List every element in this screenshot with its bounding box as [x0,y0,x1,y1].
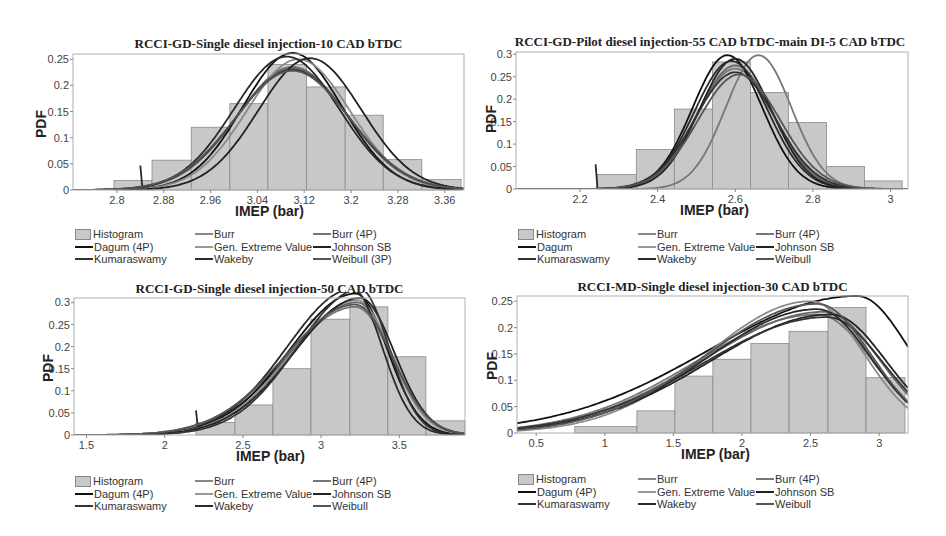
legend-item: Johnson SB [313,241,391,253]
legend-line-icon [756,246,774,248]
x-axis-label: IMEP (bar) [236,448,305,464]
legend-label: Burr [214,228,235,240]
legend-line-icon [195,480,213,482]
legend-item: Burr (4P) [756,473,820,485]
legend-item: Kumaraswamy [518,498,610,510]
legend-line-icon [313,258,331,260]
y-tick-label: 0.2 [55,341,70,353]
legend-line-icon [75,258,93,260]
legend-label: Johnson SB [332,241,391,253]
x-tick-label: 3.28 [387,194,408,206]
legend-item: Weibull [313,500,368,512]
legend-label: Wakeby [214,500,253,512]
legend-line-icon [638,246,656,248]
legend-item: Dagum (4P) [75,241,153,253]
legend-label: Kumaraswamy [537,253,610,265]
legend-label: Kumaraswamy [537,498,610,510]
y-tick-label: 0.25 [48,53,69,65]
y-tick-label: 0.2 [54,79,69,91]
plot-area: 1.522.533.500.050.10.150.20.250.3 [74,298,465,435]
y-tick-label: 0 [506,183,512,195]
legend-line-icon [75,505,93,507]
legend-line-icon [638,258,656,260]
legend-label: Weibull (3P) [332,253,392,265]
legend-item: Weibull [756,498,811,510]
y-tick-label: 0.25 [491,71,512,83]
histogram-bar [751,343,789,433]
y-tick-label: 0 [64,429,70,441]
x-tick-label: 3.36 [434,194,455,206]
legend-label: Histogram [536,473,586,485]
x-tick-label: 1.5 [79,439,94,451]
histogram-bars [114,64,461,190]
histogram-bar [268,64,307,190]
histogram-swatch-icon [75,476,91,487]
legend-line-icon [756,503,774,505]
y-axis-label: PDF [483,105,499,133]
histogram-bar [311,319,350,435]
y-tick-label: 0.25 [49,319,70,331]
legend-label: Burr (4P) [775,473,820,485]
x-tick-label: 3 [876,437,882,449]
y-tick-label: 0.3 [497,48,512,60]
legend-line-icon [518,491,536,493]
legend-label: Burr (4P) [332,475,377,487]
legend-line-icon [313,505,331,507]
y-tick-label: 0 [507,427,513,439]
legend-label: Johnson SB [775,241,834,253]
x-tick-label: 3 [318,439,324,451]
legend-line-icon [756,258,774,260]
y-axis-label: PDF [484,352,500,380]
legend-line-icon [75,493,93,495]
x-tick-label: 1.5 [666,437,681,449]
x-tick-label: 2 [162,439,168,451]
x-tick-label: 3 [887,193,893,205]
legend-label: Gen. Extreme Value [214,488,312,500]
x-tick-label: 0.5 [529,437,544,449]
legend-item: Dagum (4P) [75,488,153,500]
histogram-bar [273,369,311,435]
x-tick-label: 2.5 [803,437,818,449]
plot-area: 2.82.882.963.043.123.23.283.3600.050.10.… [73,54,464,190]
legend-item: Wakeby [638,498,696,510]
legend-line-icon [638,233,656,235]
x-tick-label: 2.96 [200,194,221,206]
y-axis-label: PDF [40,354,56,382]
x-axis-label: IMEP (bar) [235,203,304,219]
chart-title: RCCI-GD-Pilot diesel injection-55 CAD bT… [500,34,920,50]
histogram-swatch-icon [75,229,91,240]
legend-item: Gen. Extreme Value [195,241,312,253]
y-tick-label: 0.05 [491,161,512,173]
legend-item: Histogram [518,228,586,240]
legend-item: Gen. Extreme Value [638,486,755,498]
legend-item: Burr (4P) [756,228,820,240]
legend-item: Wakeby [195,253,253,265]
legend-item: Weibull [756,253,811,265]
y-tick-label: 0.1 [54,132,69,144]
legend-item: Dagum (4P) [518,486,596,498]
legend-label: Dagum (4P) [94,241,153,253]
legend-line-icon [313,233,331,235]
x-axis-label: IMEP (bar) [681,446,750,462]
legend-item: Burr (4P) [313,228,377,240]
chart-title: RCCI-GD-Single diesel injection-10 CAD b… [73,36,464,52]
legend-label: Weibull [775,253,811,265]
legend-line-icon [638,478,656,480]
legend-label: Burr (4P) [332,228,377,240]
legend-label: Weibull [332,500,368,512]
x-tick-label: 3.5 [392,439,407,451]
legend-line-icon [195,505,213,507]
legend-line-icon [195,233,213,235]
legend-label: Johnson SB [332,488,391,500]
y-tick-label: 0.25 [492,295,513,307]
legend-line-icon [756,491,774,493]
legend-line-icon [756,478,774,480]
legend-item: Kumaraswamy [75,253,167,265]
legend-item: Burr [195,475,235,487]
histogram-swatch-icon [518,474,534,485]
legend-label: Histogram [93,475,143,487]
histogram-bar [713,359,751,433]
legend-line-icon [518,258,536,260]
legend-label: Kumaraswamy [94,253,167,265]
legend-item: Wakeby [195,500,253,512]
